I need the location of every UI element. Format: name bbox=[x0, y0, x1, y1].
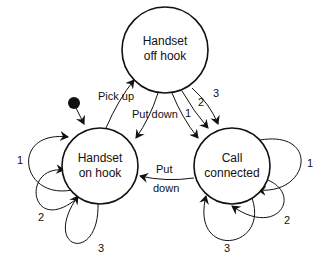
connected-loop-1-label: 1 bbox=[307, 158, 313, 169]
dial-2-label: 2 bbox=[198, 97, 204, 108]
on-hook-loop-1-label: 1 bbox=[17, 155, 23, 166]
state-diagram: Handset off hook Handset on hook Call co… bbox=[0, 0, 327, 266]
initial-state-dot bbox=[68, 97, 80, 109]
state-connected-line2: connected bbox=[192, 166, 272, 181]
initial-transition-arrow bbox=[76, 108, 84, 124]
down-label: down bbox=[153, 183, 179, 194]
state-on-hook-line2: on hook bbox=[60, 166, 140, 181]
dial-1-label: 1 bbox=[185, 108, 191, 119]
connected-loop-2-label: 2 bbox=[284, 215, 290, 226]
put-down-bottom-arrow bbox=[140, 176, 194, 180]
state-off-hook-line1: Handset bbox=[125, 34, 205, 49]
state-off-hook-line2: off hook bbox=[125, 49, 205, 64]
state-on-hook-label: Handset on hook bbox=[60, 151, 140, 181]
state-on-hook-line1: Handset bbox=[60, 151, 140, 166]
pick-up-label: Pick up bbox=[98, 91, 134, 102]
state-connected-label: Call connected bbox=[192, 151, 272, 181]
pick-up-arrow bbox=[106, 80, 134, 128]
put-down-label: Put down bbox=[132, 109, 178, 120]
state-connected-line1: Call bbox=[192, 151, 272, 166]
state-off-hook-label: Handset off hook bbox=[125, 34, 205, 64]
on-hook-loop-3-label: 3 bbox=[98, 243, 104, 254]
connected-loop-3-label: 3 bbox=[224, 243, 230, 254]
dial-3-label: 3 bbox=[213, 88, 219, 99]
on-hook-loop-2-label: 2 bbox=[38, 212, 44, 223]
put-label: Put bbox=[156, 164, 173, 175]
